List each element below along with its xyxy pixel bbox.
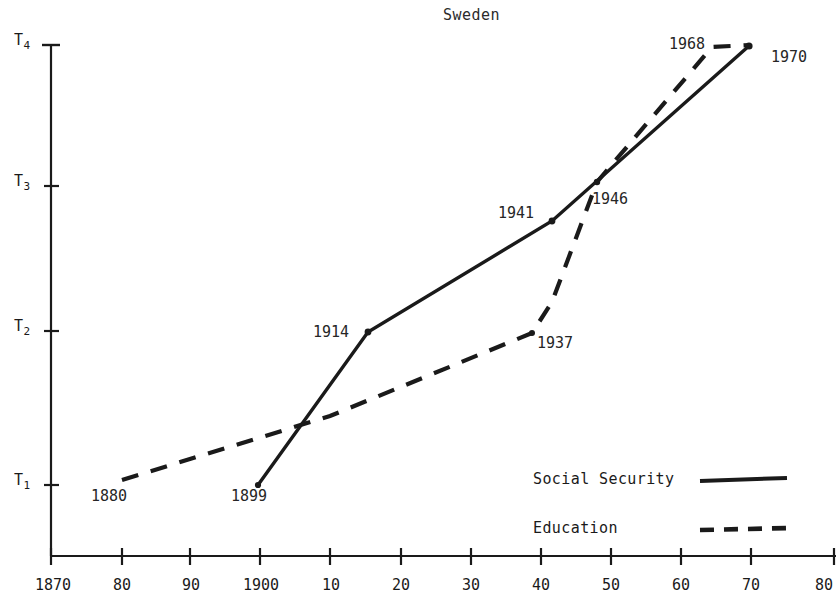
point-1914 [365,329,372,336]
annotation-1937: 1937 [537,336,573,351]
point-1937 [529,330,535,336]
y-axis-label-t2-sub: 2 [24,325,31,338]
x-axis-label-1960: 60 [672,578,690,593]
y-axis-label-t4-base: T [14,31,23,49]
x-axis-label-1970: 70 [742,578,760,593]
y-axis-label-t2-base: T [14,317,23,335]
y-axis-label-t1: T1 [14,473,30,491]
y-axis-label-t4-sub: 4 [24,39,31,52]
x-axis-label-1890: 90 [182,578,200,593]
x-axis-label-1920: 20 [392,578,410,593]
y-axis-label-t2: T2 [14,319,30,337]
legend-label-social-security: Social Security [533,472,674,487]
x-axis-label-1900: 1900 [243,578,279,593]
plot-area [0,0,839,607]
y-axis-label-t3-base: T [14,172,23,190]
point-1946 [594,179,600,185]
series-social-security-line [258,45,750,485]
y-axis-label-t1-sub: 1 [24,479,31,492]
annotation-1946: 1946 [592,192,628,207]
legend-swatch-education [700,528,790,530]
x-axis-label-1950: 50 [602,578,620,593]
chart-figure: Sweden [0,0,839,607]
y-axis-label-t1-base: T [14,471,23,489]
point-1941 [549,218,556,225]
y-axis-label-t4: T4 [14,33,30,51]
x-axis-label-1930: 30 [462,578,480,593]
y-axis-label-t3: T3 [14,174,30,192]
series-education-line [122,45,750,480]
x-axis-label-1940: 40 [532,578,550,593]
annotation-1968: 1968 [669,37,705,52]
annotation-1941: 1941 [498,206,534,221]
x-axis-label-1880: 80 [113,578,131,593]
point-1970 [745,42,752,49]
legend-label-education: Education [533,521,618,536]
legend-swatch-social-security [700,478,787,481]
annotation-1970: 1970 [771,50,807,65]
y-axis-label-t3-sub: 3 [24,180,31,193]
x-axis-label-1910: 10 [322,578,340,593]
annotation-1914: 1914 [313,325,349,340]
annotation-1899: 1899 [231,489,267,504]
x-axis-label-1980: 80 [815,578,833,593]
annotation-1880: 1880 [91,489,127,504]
x-axis-label-1870: 1870 [35,578,71,593]
